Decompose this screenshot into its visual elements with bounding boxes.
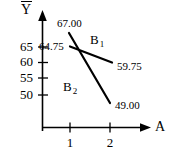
y-axis <box>38 10 47 131</box>
y-tick-label-55: 55 <box>9 71 33 84</box>
value-label-49: 49.00 <box>115 100 140 111</box>
value-label-67: 67.00 <box>57 18 82 29</box>
y-axis-label: Y <box>21 1 32 17</box>
x-axis-label: A <box>155 120 165 134</box>
y-tick-label-65: 65 <box>9 40 33 53</box>
value-label-59-75: 59.75 <box>117 61 142 72</box>
x-tick-label-1: 1 <box>64 136 76 149</box>
y-tick-label-60: 60 <box>9 55 33 68</box>
x-tick-label-2: 2 <box>104 136 116 149</box>
y-axis-label-text: Y <box>21 3 32 17</box>
series-label-b2-sub: 2 <box>73 86 78 96</box>
y-tick-label-50: 50 <box>9 88 33 101</box>
series-line-b1 <box>70 47 112 63</box>
series-label-b2: B2 <box>63 80 76 93</box>
series-label-b1-sub: 1 <box>100 39 105 49</box>
interaction-plot: Y A 65 60 55 50 1 2 67.00 64.75 59.75 49… <box>0 0 169 155</box>
x-axis <box>43 123 152 132</box>
series-label-b2-base: B <box>63 79 72 94</box>
value-label-64-75: 64.75 <box>39 41 64 52</box>
series-label-b1-base: B <box>90 32 99 47</box>
series-label-b1: B1 <box>90 33 103 46</box>
